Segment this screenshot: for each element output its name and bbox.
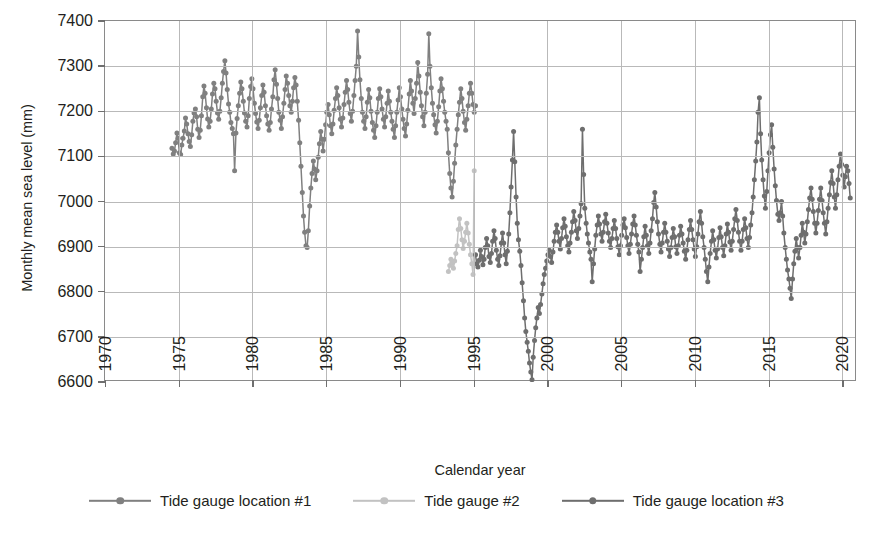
y-axis-tick-mark — [98, 246, 105, 247]
y-axis-tick-label: 6600 — [57, 373, 98, 391]
x-axis-tick-label: 1980 — [244, 336, 262, 392]
y-axis-tick-mark — [98, 111, 105, 112]
gridline-vertical — [474, 21, 475, 380]
gridline-vertical — [400, 21, 401, 380]
y-axis-tick-label: 6700 — [57, 328, 98, 346]
y-axis-tick-mark — [98, 20, 105, 21]
x-axis-tick-label: 1995 — [466, 336, 484, 392]
gridline-horizontal — [105, 247, 855, 248]
gridline-horizontal — [105, 202, 855, 203]
gridline-vertical — [252, 21, 253, 380]
y-axis-tick-label: 7200 — [57, 102, 98, 120]
legend-label: Tide gauge location #1 — [160, 492, 311, 509]
gridline-vertical — [326, 21, 327, 380]
gridline-vertical — [842, 21, 843, 380]
plot-area: 6600670068006900700071007200730074001970… — [104, 20, 856, 381]
gridline-horizontal — [105, 66, 855, 67]
y-axis-tick: 7200 — [57, 102, 105, 120]
y-axis-tick: 7100 — [57, 147, 105, 165]
y-axis-tick-mark — [98, 156, 105, 157]
x-axis-tick-label: 2015 — [761, 336, 779, 392]
y-axis-tick-mark — [98, 291, 105, 292]
x-axis-tick-label: 1975 — [171, 336, 189, 392]
gridline-vertical — [695, 21, 696, 380]
y-axis-tick-label: 7400 — [57, 12, 98, 30]
gridlines — [105, 21, 855, 380]
legend-item-1[interactable]: Tide gauge location #1 — [89, 492, 311, 509]
y-axis-title: Monthly mean sea level (mm) — [19, 28, 35, 368]
gridline-horizontal — [105, 111, 855, 112]
legend-item-3[interactable]: Tide gauge location #3 — [562, 492, 784, 509]
x-axis-tick-label: 1985 — [318, 336, 336, 392]
x-axis-tick-label: 2000 — [539, 336, 557, 392]
legend-label: Tide gauge location #3 — [633, 492, 784, 509]
y-axis-tick-mark — [98, 65, 105, 66]
sea-level-chart-figure: Monthly mean sea level (mm) Calendar yea… — [0, 0, 873, 537]
y-axis-tick: 7300 — [57, 57, 105, 75]
legend-swatch-icon — [89, 495, 151, 507]
x-axis-tick-label: 1970 — [97, 336, 115, 392]
x-axis-title: Calendar year — [104, 462, 856, 478]
y-axis-tick-mark — [98, 201, 105, 202]
y-axis-tick: 7400 — [57, 12, 105, 30]
chart-legend: Tide gauge location #1Tide gauge #2Tide … — [0, 492, 873, 509]
y-axis-tick-label: 6800 — [57, 283, 98, 301]
y-axis-tick: 6800 — [57, 283, 105, 301]
x-axis-tick-label: 1990 — [392, 336, 410, 392]
legend-swatch-icon — [562, 495, 624, 507]
y-axis-tick-label: 7300 — [57, 57, 98, 75]
gridline-vertical — [547, 21, 548, 380]
gridline-vertical — [621, 21, 622, 380]
gridline-vertical — [179, 21, 180, 380]
gridline-horizontal — [105, 292, 855, 293]
x-axis-tick-label: 2020 — [834, 336, 852, 392]
x-axis-tick-label: 2010 — [687, 336, 705, 392]
legend-label: Tide gauge #2 — [424, 492, 519, 509]
x-axis-tick-label: 2005 — [613, 336, 631, 392]
y-axis-tick-label: 7100 — [57, 147, 98, 165]
legend-item-2[interactable]: Tide gauge #2 — [353, 492, 519, 509]
gridline-vertical — [769, 21, 770, 380]
gridline-horizontal — [105, 156, 855, 157]
legend-swatch-icon — [353, 495, 415, 507]
y-axis-tick-label: 6900 — [57, 238, 98, 256]
y-axis-tick-label: 7000 — [57, 193, 98, 211]
y-axis-tick: 6900 — [57, 238, 105, 256]
y-axis-tick: 7000 — [57, 193, 105, 211]
